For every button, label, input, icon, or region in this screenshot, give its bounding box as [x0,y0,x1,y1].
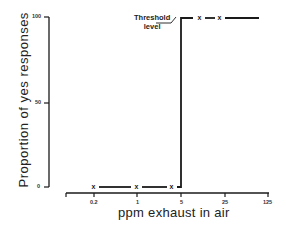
annotation-line-1: Threshold [134,13,170,22]
x-axis-title: ppm exhaust in air [118,205,230,220]
step-chart: x x x x x 100 50 0 0.2 1 5 25 125 Thresh… [0,0,286,226]
data-marker: x [218,14,222,21]
chart-plot-area [0,0,286,226]
y-axis-title: Proportion of yes responses [16,18,31,188]
data-marker: x [198,14,202,21]
data-marker: x [135,183,139,190]
y-tick-label-100: 100 [32,13,41,19]
data-marker: x [170,183,174,190]
threshold-step-line [177,18,193,187]
y-tick-label-0: 0 [37,183,40,189]
annotation-line-2: level [134,22,170,31]
x-tick-label-125: 125 [263,199,272,205]
threshold-annotation: Threshold level [134,13,170,31]
y-tick-label-50: 50 [35,99,41,105]
data-marker: x [92,183,96,190]
x-tick-label-0.2: 0.2 [90,199,98,205]
